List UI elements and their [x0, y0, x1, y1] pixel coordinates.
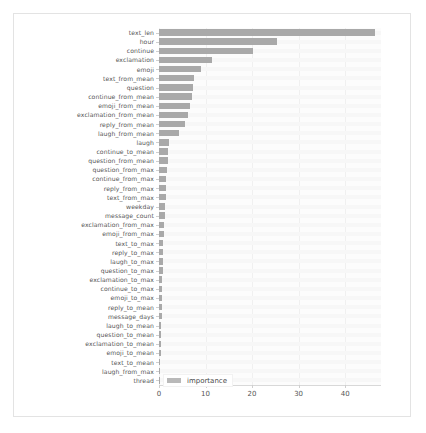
bar-reply_to_max	[159, 249, 163, 255]
y-tick	[156, 115, 159, 116]
y-tick-label-reply_to_max: reply_to_max	[6, 248, 154, 257]
y-tick-label-message_days: message_days	[6, 312, 154, 321]
y-tick	[156, 216, 159, 217]
y-tick	[156, 170, 159, 171]
bar-weekday	[159, 203, 165, 209]
bar-row	[159, 293, 381, 302]
y-tick	[156, 380, 159, 381]
y-tick-label-exclamation: exclamation	[6, 55, 154, 64]
bar-exclamation_from_mean	[159, 112, 188, 118]
bar-row	[159, 83, 381, 92]
y-tick-label-reply_from_mean: reply_from_mean	[6, 120, 154, 129]
y-tick	[156, 353, 159, 354]
bar-message_days	[159, 313, 162, 319]
bar-thread	[159, 377, 160, 383]
y-tick	[156, 88, 159, 89]
y-tick	[156, 188, 159, 189]
bar-row	[159, 46, 381, 55]
bar-row	[159, 202, 381, 211]
y-tick	[156, 335, 159, 336]
bar-row	[159, 184, 381, 193]
y-tick	[156, 197, 159, 198]
bar-row	[159, 266, 381, 275]
y-tick-label-continue_from_max: continue_from_max	[6, 174, 154, 183]
y-tick	[156, 78, 159, 79]
y-tick-label-reply_to_mean: reply_to_mean	[6, 303, 154, 312]
y-tick	[156, 51, 159, 52]
y-tick-label-message_count: message_count	[6, 211, 154, 220]
bar-laugh_from_max	[159, 368, 160, 374]
y-tick-label-continue: continue	[6, 46, 154, 55]
legend[interactable]: importance	[163, 374, 233, 387]
bar-exclamation_from_max	[159, 222, 164, 228]
y-tick-label-hour: hour	[6, 37, 154, 46]
bar-exclamation	[159, 57, 212, 63]
y-tick	[156, 261, 159, 262]
y-tick	[156, 142, 159, 143]
y-tick	[156, 344, 159, 345]
y-tick-label-continue_to_max: continue_to_max	[6, 284, 154, 293]
bar-question_from_max	[159, 167, 167, 173]
y-tick	[156, 271, 159, 272]
bar-row	[159, 257, 381, 266]
y-tick-label-emoji_from_max: emoji_from_max	[6, 229, 154, 238]
bar-laugh_to_mean	[159, 322, 161, 328]
bar-row	[159, 65, 381, 74]
bar-row	[159, 138, 381, 147]
bar-row	[159, 303, 381, 312]
bar-exclamation_to_max	[159, 276, 162, 282]
bar-row	[159, 156, 381, 165]
y-tick-label-laugh_to_max: laugh_to_max	[6, 257, 154, 266]
y-tick-label-question_from_max: question_from_max	[6, 165, 154, 174]
bar-continue_from_max	[159, 176, 166, 182]
bar-text_len	[159, 29, 375, 35]
bar-row	[159, 174, 381, 183]
bar-row	[159, 312, 381, 321]
y-tick	[156, 133, 159, 134]
y-tick-label-question_to_max: question_to_max	[6, 266, 154, 275]
bar-laugh	[159, 139, 169, 145]
y-tick-label-emoji_to_mean: emoji_to_mean	[6, 348, 154, 357]
y-tick-label-question_to_mean: question_to_mean	[6, 330, 154, 339]
bar-row	[159, 74, 381, 83]
bar-row	[159, 92, 381, 101]
bar-text_to_max	[159, 240, 163, 246]
bar-row	[159, 321, 381, 330]
bar-row	[159, 193, 381, 202]
y-tick	[156, 289, 159, 290]
bar-reply_from_mean	[159, 121, 185, 127]
bar-row	[159, 55, 381, 64]
y-tick	[156, 106, 159, 107]
y-tick	[156, 326, 159, 327]
bar-row	[159, 229, 381, 238]
bar-row	[159, 28, 381, 37]
bar-continue	[159, 48, 253, 54]
bar-question	[159, 84, 193, 90]
bar-emoji_to_max	[159, 295, 162, 301]
y-tick	[156, 362, 159, 363]
y-tick	[156, 161, 159, 162]
bar-row	[159, 120, 381, 129]
y-tick-label-question_from_mean: question_from_mean	[6, 156, 154, 165]
bar-reply_to_mean	[159, 304, 162, 310]
y-tick	[156, 280, 159, 281]
bar-row	[159, 37, 381, 46]
y-tick-label-weekday: weekday	[6, 202, 154, 211]
bar-row	[159, 330, 381, 339]
bar-question_from_mean	[159, 157, 168, 163]
y-tick	[156, 60, 159, 61]
bar-row	[159, 284, 381, 293]
y-tick	[156, 179, 159, 180]
bar-row	[159, 220, 381, 229]
bar-message_count	[159, 212, 165, 218]
bar-exclamation_to_mean	[159, 341, 161, 347]
bar-row	[159, 211, 381, 220]
y-tick	[156, 371, 159, 372]
x-tick-label-0: 0	[144, 390, 174, 398]
bar-emoji	[159, 66, 201, 72]
bar-text_from_mean	[159, 75, 194, 81]
y-tick-label-laugh: laugh	[6, 138, 154, 147]
bar-continue_to_max	[159, 286, 162, 292]
y-tick-label-emoji_to_max: emoji_to_max	[6, 293, 154, 302]
y-tick	[156, 97, 159, 98]
